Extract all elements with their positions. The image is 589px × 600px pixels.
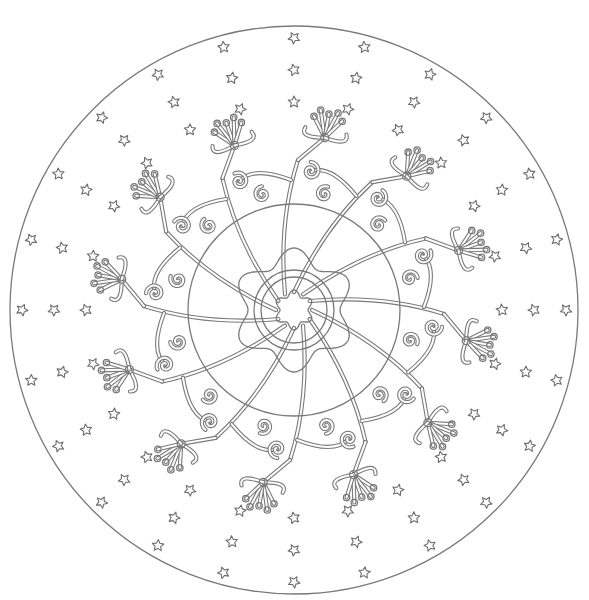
star-icon (490, 358, 501, 369)
inner-ring (254, 270, 334, 350)
star-icon (56, 242, 67, 253)
star-icon (496, 184, 507, 195)
star-icon (552, 234, 563, 245)
star-icon (235, 505, 246, 516)
star-icon (118, 475, 129, 486)
star-icon (528, 304, 539, 315)
star-icon (468, 409, 479, 420)
star-icon (169, 512, 180, 524)
star-icon (17, 305, 28, 316)
star-icon (435, 451, 446, 462)
star-icon (481, 497, 492, 508)
stem-branch (241, 326, 353, 514)
star-icon (524, 168, 535, 179)
star-icon (53, 441, 64, 452)
star-icon (409, 97, 420, 108)
star-icon (288, 545, 299, 556)
star-icon (119, 135, 130, 146)
star-icon (425, 69, 436, 80)
star-icon (343, 104, 354, 115)
star-icon (80, 304, 91, 316)
star-icon (288, 33, 299, 44)
star-icon (359, 41, 370, 52)
star-icon (152, 69, 163, 80)
star-field (17, 33, 572, 588)
stem-branch (174, 114, 278, 301)
star-icon (289, 577, 300, 588)
star-icon (88, 250, 99, 261)
center-flower (276, 290, 312, 330)
star-icon (469, 200, 480, 211)
star-icon (288, 512, 299, 523)
inner-rings (254, 270, 334, 350)
star-icon (351, 536, 362, 547)
star-icon (97, 112, 108, 123)
mandala-artwork (0, 0, 589, 600)
star-icon (226, 536, 237, 547)
star-icon (435, 157, 446, 168)
star-icon (392, 125, 403, 136)
star-icon (184, 124, 195, 135)
star-icon (520, 366, 531, 377)
star-icon (53, 168, 64, 179)
star-icon (141, 157, 152, 168)
star-icon (520, 243, 531, 254)
stem-branch (98, 326, 285, 430)
star-icon (497, 425, 508, 436)
star-icon (524, 440, 535, 451)
star-icon (141, 451, 152, 462)
star-icon (48, 305, 59, 316)
star-icon (80, 424, 91, 435)
star-icon (26, 374, 37, 385)
star-icon (227, 72, 238, 83)
star-icon (342, 506, 353, 517)
star-icon (235, 104, 246, 115)
star-icon (489, 251, 500, 262)
star-icon (458, 135, 469, 146)
stem-branch (303, 190, 490, 294)
outer-circle (10, 26, 578, 594)
star-icon (393, 484, 404, 495)
star-icon (81, 184, 92, 195)
star-icon (408, 512, 420, 523)
inner-ring (261, 277, 327, 343)
star-icon (218, 567, 229, 578)
star-icon (351, 72, 362, 83)
star-icon (88, 359, 99, 370)
star-icon (108, 408, 119, 419)
star-icon (184, 485, 195, 496)
star-icon (168, 96, 179, 107)
stem-branch (235, 107, 347, 295)
star-icon (288, 96, 299, 107)
stem-branch (310, 251, 498, 363)
star-icon (560, 305, 571, 316)
star-icon (152, 540, 163, 551)
star-icon (288, 64, 299, 75)
stem-branch (91, 257, 279, 369)
stem-branch (310, 319, 414, 506)
star-icon (496, 304, 507, 315)
star-icon (359, 567, 370, 578)
star-icon (96, 497, 107, 508)
star-icon (424, 540, 435, 551)
star-icon (481, 113, 492, 124)
star-icon (57, 366, 68, 377)
star-icon (218, 41, 229, 52)
star-icon (458, 474, 469, 485)
flower-stems (91, 107, 497, 513)
star-icon (25, 234, 36, 245)
mandala-coloring-page (0, 0, 589, 600)
star-icon (109, 201, 120, 212)
big-ring (188, 204, 400, 416)
star-icon (551, 375, 562, 386)
